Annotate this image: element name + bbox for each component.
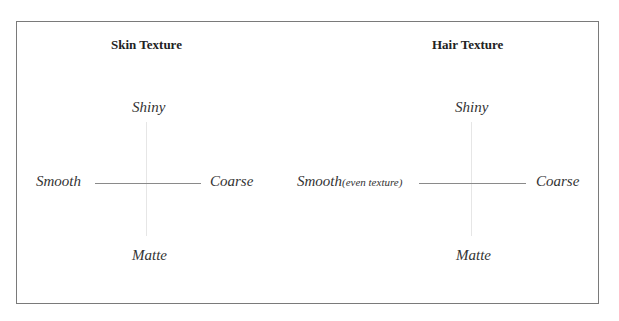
skin-horizontal-axis: [95, 183, 201, 184]
hair-axis-right-label: Coarse: [536, 173, 579, 190]
hair-axis-bottom-label: Matte: [456, 247, 491, 264]
hair-axis-top-label: Shiny: [455, 99, 488, 116]
hair-axis-left-label: Smooth(even texture): [297, 173, 402, 190]
hair-horizontal-axis: [419, 183, 526, 184]
skin-axis-left-label: Smooth: [36, 173, 81, 190]
hair-axis-left-note: (even texture): [342, 176, 402, 188]
hair-vertical-axis: [471, 122, 472, 236]
hair-axis-left-main: Smooth: [297, 173, 342, 189]
skin-axis-bottom-label: Matte: [132, 247, 167, 264]
skin-texture-title: Skin Texture: [111, 37, 182, 53]
skin-axis-right-label: Coarse: [210, 173, 253, 190]
skin-vertical-axis: [146, 122, 147, 236]
diagram-frame: [16, 21, 599, 304]
skin-axis-top-label: Shiny: [132, 99, 165, 116]
hair-texture-title: Hair Texture: [432, 37, 503, 53]
